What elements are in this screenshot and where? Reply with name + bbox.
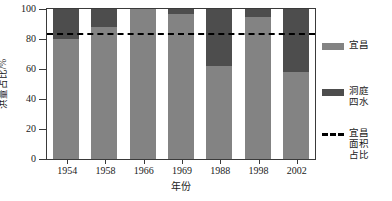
x-tick <box>259 159 260 164</box>
bar-segment-yichang <box>91 27 117 159</box>
bar-segment-yichang <box>245 17 271 160</box>
chart-legend: 宜昌洞庭 四水宜昌 面积 占比 <box>322 8 392 160</box>
y-tick <box>39 159 46 160</box>
y-tick-label: 100 <box>21 4 36 14</box>
y-tick-label: 0 <box>31 154 36 164</box>
x-tick-label-2002: 2002 <box>287 166 307 176</box>
x-tick <box>105 159 106 164</box>
y-tick <box>39 99 46 100</box>
plot-area: 0204060801001954195819661969198819982002 <box>46 8 316 160</box>
bar-segment-yichang <box>168 14 194 160</box>
y-tick <box>39 69 46 70</box>
x-tick-label-1954: 1954 <box>57 166 77 176</box>
chart-figure: 洪量占比/% 020406080100195419581966196919881… <box>0 0 392 201</box>
y-tick <box>39 9 46 10</box>
y-tick-label: 60 <box>26 64 36 74</box>
y-tick-label: 40 <box>26 94 36 104</box>
bar-1998[interactable] <box>245 9 271 159</box>
legend-item-2[interactable]: 宜昌 面积 占比 <box>322 128 369 161</box>
x-tick <box>220 159 221 164</box>
bar-2002[interactable] <box>283 9 309 159</box>
bar-1954[interactable] <box>53 9 79 159</box>
x-tick-label-1958: 1958 <box>95 166 115 176</box>
bar-segment-dongting <box>206 9 232 66</box>
x-tick-label-1966: 1966 <box>134 166 154 176</box>
x-tick <box>67 159 68 164</box>
bar-1958[interactable] <box>91 9 117 159</box>
bar-group <box>47 9 315 159</box>
legend-label: 洞庭 四水 <box>349 86 369 108</box>
x-axis-title: 年份 <box>46 182 316 192</box>
bar-segment-dongting <box>245 9 271 17</box>
x-tick-label-1988: 1988 <box>210 166 230 176</box>
x-tick <box>297 159 298 164</box>
x-tick-label-1969: 1969 <box>172 166 192 176</box>
bar-segment-dongting <box>91 9 117 27</box>
legend-swatch-icon <box>322 89 344 96</box>
legend-item-1[interactable]: 洞庭 四水 <box>322 86 369 108</box>
bar-segment-yichang <box>53 39 79 159</box>
bar-1969[interactable] <box>168 9 194 159</box>
bar-segment-yichang <box>130 9 156 159</box>
bar-segment-yichang <box>206 66 232 159</box>
x-tick <box>144 159 145 164</box>
x-tick <box>182 159 183 164</box>
x-tick-label-1998: 1998 <box>249 166 269 176</box>
legend-item-0[interactable]: 宜昌 <box>322 40 369 51</box>
bar-segment-yichang <box>283 72 309 159</box>
y-tick-label: 20 <box>26 124 36 134</box>
legend-swatch-icon <box>322 43 344 50</box>
bar-1988[interactable] <box>206 9 232 159</box>
y-tick <box>39 39 46 40</box>
bar-segment-dongting <box>283 9 309 72</box>
legend-label: 宜昌 面积 占比 <box>349 128 369 161</box>
y-tick-label: 80 <box>26 34 36 44</box>
y-axis-title: 洪量占比/% <box>0 59 9 110</box>
bar-1966[interactable] <box>130 9 156 159</box>
reference-line-yichang-area-share <box>47 33 315 35</box>
legend-dashed-line-icon <box>322 133 344 136</box>
legend-label: 宜昌 <box>349 40 369 51</box>
y-tick <box>39 129 46 130</box>
